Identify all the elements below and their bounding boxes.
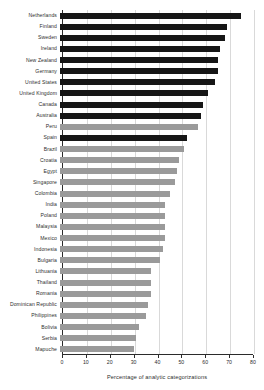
bar[interactable]: [60, 213, 165, 219]
bar-row[interactable]: Canada: [0, 99, 264, 110]
bar-row[interactable]: United States: [0, 77, 264, 88]
x-tick-label: 70: [226, 359, 232, 365]
bar[interactable]: [60, 113, 201, 119]
bar[interactable]: [60, 246, 163, 252]
bar-row[interactable]: India: [0, 199, 264, 210]
bar[interactable]: [60, 13, 241, 19]
bar[interactable]: [60, 24, 227, 30]
x-tick: [86, 355, 87, 358]
category-label: Netherlands: [0, 13, 60, 18]
category-label: Australia: [0, 113, 60, 118]
bar-track: [60, 221, 264, 232]
bar[interactable]: [60, 335, 136, 341]
bar-row[interactable]: Philippines: [0, 310, 264, 321]
bar[interactable]: [60, 102, 203, 108]
x-tick-label: 40: [155, 359, 161, 365]
bar-row[interactable]: Australia: [0, 110, 264, 121]
bar[interactable]: [60, 135, 187, 141]
bar-row[interactable]: Lithuania: [0, 266, 264, 277]
bar-row[interactable]: Bolivia: [0, 322, 264, 333]
bar-row[interactable]: Ireland: [0, 43, 264, 54]
bar[interactable]: [60, 302, 148, 308]
bar-track: [60, 43, 264, 54]
bar[interactable]: [60, 46, 220, 52]
bar[interactable]: [60, 124, 198, 130]
bar[interactable]: [60, 324, 139, 330]
bar-row[interactable]: Brazil: [0, 144, 264, 155]
bar[interactable]: [60, 57, 218, 63]
bar-track: [60, 322, 264, 333]
bar[interactable]: [60, 313, 146, 319]
bar-chart: NetherlandsFinlandSwedenIrelandNew Zeala…: [0, 0, 264, 390]
bar[interactable]: [60, 146, 184, 152]
bar-row[interactable]: Colombia: [0, 188, 264, 199]
bar-track: [60, 288, 264, 299]
category-label: India: [0, 202, 60, 207]
category-label: Colombia: [0, 191, 60, 196]
bar-row[interactable]: Dominican Republic: [0, 299, 264, 310]
category-label: Mexico: [0, 236, 60, 241]
bar[interactable]: [60, 79, 215, 85]
category-label: Malaysia: [0, 224, 60, 229]
bar-track: [60, 121, 264, 132]
bar-row[interactable]: Egypt: [0, 166, 264, 177]
bar-track: [60, 166, 264, 177]
bar[interactable]: [60, 179, 175, 185]
bar-track: [60, 77, 264, 88]
category-label: Dominican Republic: [0, 302, 60, 307]
x-tick-label: 50: [178, 359, 184, 365]
bar[interactable]: [60, 35, 225, 41]
bar[interactable]: [60, 235, 165, 241]
category-label: Bulgaria: [0, 258, 60, 263]
bar[interactable]: [60, 280, 151, 286]
bar-row[interactable]: Peru: [0, 121, 264, 132]
bar-row[interactable]: United Kingdom: [0, 88, 264, 99]
bar[interactable]: [60, 68, 218, 74]
bar-track: [60, 299, 264, 310]
bar[interactable]: [60, 191, 170, 197]
bar-track: [60, 177, 264, 188]
bar-row[interactable]: New Zealand: [0, 55, 264, 66]
bar-row[interactable]: Bulgaria: [0, 255, 264, 266]
bar-track: [60, 144, 264, 155]
bar-row[interactable]: Netherlands: [0, 10, 264, 21]
category-label: Thailand: [0, 280, 60, 285]
bar-row[interactable]: Sweden: [0, 32, 264, 43]
bar[interactable]: [60, 90, 208, 96]
x-tick-label: 80: [250, 359, 256, 365]
bar-row[interactable]: Malaysia: [0, 221, 264, 232]
bar[interactable]: [60, 224, 165, 230]
category-label: Indonesia: [0, 247, 60, 252]
category-label: New Zealand: [0, 58, 60, 63]
category-label: Germany: [0, 69, 60, 74]
bar-row[interactable]: Croatia: [0, 155, 264, 166]
x-tick: [134, 355, 135, 358]
bar[interactable]: [60, 157, 179, 163]
bar-row[interactable]: Spain: [0, 132, 264, 143]
bar[interactable]: [60, 168, 177, 174]
bar[interactable]: [60, 202, 165, 208]
category-label: Poland: [0, 213, 60, 218]
bar[interactable]: [60, 291, 151, 297]
bar-row[interactable]: Serbia: [0, 333, 264, 344]
bar-row[interactable]: Singapore: [0, 177, 264, 188]
category-label: United Kingdom: [0, 91, 60, 96]
category-label: Singapore: [0, 180, 60, 185]
bar[interactable]: [60, 257, 160, 263]
category-label: Peru: [0, 124, 60, 129]
bar[interactable]: [60, 346, 134, 352]
bar-row[interactable]: Germany: [0, 66, 264, 77]
bar[interactable]: [60, 268, 151, 274]
x-tick: [158, 355, 159, 358]
bar-row[interactable]: Mapuche: [0, 344, 264, 355]
bar-track: [60, 110, 264, 121]
bar-track: [60, 188, 264, 199]
bar-row[interactable]: Romania: [0, 288, 264, 299]
bar-row[interactable]: Thailand: [0, 277, 264, 288]
x-tick: [62, 355, 63, 358]
bar-row[interactable]: Poland: [0, 210, 264, 221]
bar-row[interactable]: Indonesia: [0, 244, 264, 255]
category-label: Spain: [0, 135, 60, 140]
bar-row[interactable]: Finland: [0, 21, 264, 32]
bar-row[interactable]: Mexico: [0, 233, 264, 244]
